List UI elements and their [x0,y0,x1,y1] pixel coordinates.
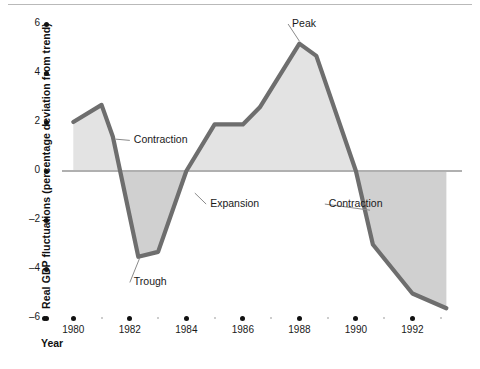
y-tick-dot [44,267,49,272]
y-tick-label: –4 [14,262,40,273]
y-tick-label: 0 [14,164,40,175]
x-tick-dot [71,316,76,321]
x-tick-dot [127,316,132,321]
gdp-business-cycle-chart: Real GDP fluctuations (percentage deviat… [0,0,480,369]
x-tick-dot [410,316,415,321]
x-minor-tick-dot [440,317,442,319]
x-minor-tick-dot [101,317,103,319]
x-tick-label: 1992 [392,324,432,335]
area-below-trend [356,171,446,308]
y-tick-dot [44,120,49,125]
x-tick-dot [240,316,245,321]
x-tick-dot [353,316,358,321]
x-tick-label: 1988 [279,324,319,335]
area-above-trend [186,44,356,171]
annotation-label: Expansion [210,197,259,209]
y-tick-dot [44,169,49,174]
plot-area [0,0,480,369]
annotation-label: Contraction [134,133,188,145]
y-tick-label: 2 [14,115,40,126]
annotation-label: Contraction [329,197,383,209]
x-tick-label: 1984 [166,324,206,335]
x-tick-label: 1980 [53,324,93,335]
y-tick-label: 4 [14,66,40,77]
y-tick-dot [44,71,49,76]
y-tick-label: 6 [14,17,40,28]
annotation-label: Peak [292,17,316,29]
y-tick-dot [44,22,49,27]
x-minor-tick-dot [214,317,216,319]
x-tick-label: 1986 [223,324,263,335]
y-tick-dot [44,218,49,223]
annotation-leader-line [116,139,130,140]
y-tick-label: –6 [14,311,40,322]
x-tick-label: 1990 [336,324,376,335]
x-tick-dot [297,316,302,321]
x-tick-dot [184,316,189,321]
x-axis-origin-dot [42,316,47,321]
y-tick-label: –2 [14,213,40,224]
x-minor-tick-dot [327,317,329,319]
annotation-label: Trough [134,275,167,287]
annotation-leader-line [195,193,206,204]
x-tick-label: 1982 [110,324,150,335]
